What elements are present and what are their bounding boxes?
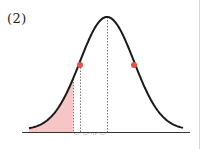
normal-curve: [29, 17, 183, 128]
left-inflection-point: [77, 62, 83, 68]
right-inflection-point: [131, 62, 137, 68]
bell-curve-diagram: [0, 0, 204, 149]
shaded-tail-region: [29, 79, 73, 132]
inflection-points: [77, 62, 137, 68]
